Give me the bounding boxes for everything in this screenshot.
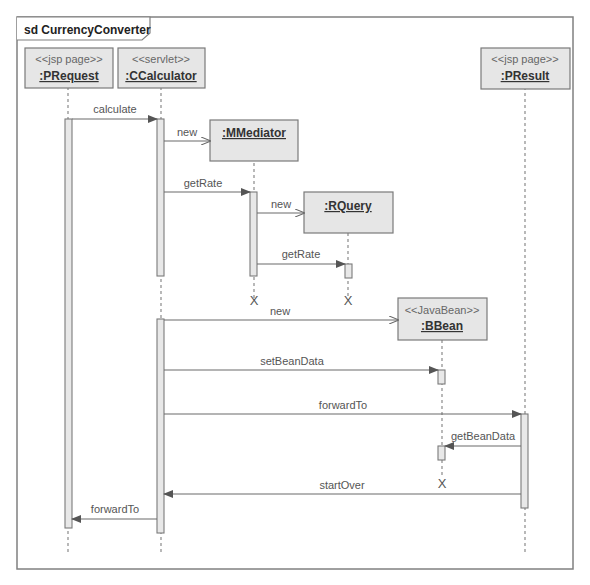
message-label: getRate bbox=[282, 248, 321, 260]
stereotype-label: <<jsp page>> bbox=[491, 53, 558, 65]
sequence-diagram: sd CurrencyConverter <<jsp page>> :PRequ… bbox=[0, 0, 590, 585]
lifeline-head-mmediator[interactable]: :MMediator bbox=[210, 120, 298, 161]
stereotype-label: <<JavaBean>> bbox=[405, 304, 480, 316]
activation-ccalculator-1 bbox=[157, 119, 164, 276]
activation-rquery bbox=[345, 264, 352, 278]
activation-bbean-2 bbox=[438, 446, 445, 460]
activation-bbean-1 bbox=[438, 370, 445, 384]
object-name: :PRequest bbox=[39, 69, 98, 83]
activation-presult bbox=[521, 414, 528, 508]
lifeline-head-ccalculator[interactable]: <<servlet>> :CCalculator bbox=[118, 48, 205, 88]
frame-title: sd CurrencyConverter bbox=[24, 23, 151, 37]
lifeline-head-prequest[interactable]: <<jsp page>> :PRequest bbox=[25, 48, 113, 88]
message-label: new bbox=[271, 198, 291, 210]
message-label: calculate bbox=[93, 103, 136, 115]
lifeline-head-rquery[interactable]: :RQuery bbox=[304, 192, 393, 233]
object-name: :CCalculator bbox=[125, 69, 197, 83]
activation-prequest bbox=[65, 119, 72, 528]
activation-ccalculator-2 bbox=[157, 319, 164, 533]
message-label: new bbox=[270, 305, 290, 317]
destroy-mark-rquery: X bbox=[344, 293, 353, 308]
destroy-mark-mmediator: X bbox=[250, 293, 259, 308]
message-label: getRate bbox=[184, 177, 223, 189]
message-label: startOver bbox=[319, 479, 365, 491]
message-label: setBeanData bbox=[260, 355, 324, 367]
activation-mmediator bbox=[250, 192, 257, 276]
object-name: :RQuery bbox=[324, 199, 372, 213]
destroy-mark-bbean: X bbox=[438, 476, 447, 491]
message-label: forwardTo bbox=[91, 503, 139, 515]
message-label: new bbox=[177, 126, 197, 138]
stereotype-label: <<jsp page>> bbox=[35, 53, 102, 65]
object-name: :MMediator bbox=[222, 126, 286, 140]
stereotype-label: <<servlet>> bbox=[132, 53, 190, 65]
lifeline-head-bbean[interactable]: <<JavaBean>> :BBean bbox=[398, 298, 487, 340]
lifeline-head-presult[interactable]: <<jsp page>> :PResult bbox=[481, 48, 570, 89]
message-label: forwardTo bbox=[319, 399, 367, 411]
object-name: :PResult bbox=[501, 69, 550, 83]
diagram-frame bbox=[17, 17, 573, 569]
object-name: :BBean bbox=[421, 319, 463, 333]
message-label: getBeanData bbox=[451, 430, 516, 442]
